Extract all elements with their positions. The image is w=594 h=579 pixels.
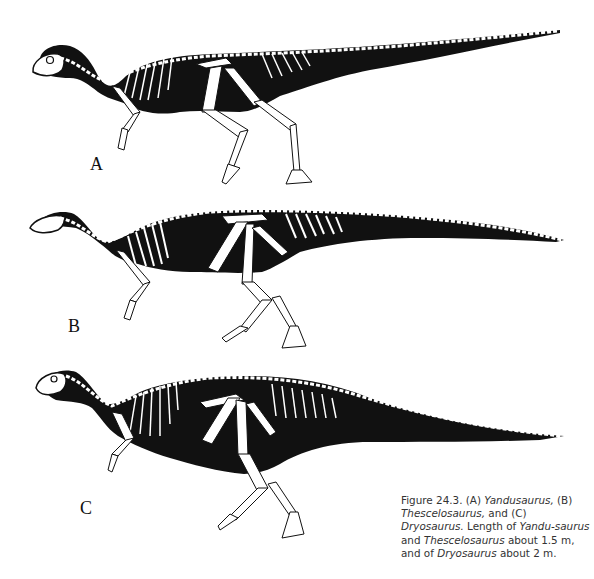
skeleton-b-skull bbox=[30, 216, 64, 233]
skeleton-c-skull bbox=[36, 373, 66, 395]
caption-taxon-yandusaurus: Yandusaurus, bbox=[484, 494, 553, 506]
caption-taxon-yandusaurus-length: Yandu-saurus bbox=[520, 520, 590, 532]
skeleton-a-body bbox=[40, 30, 560, 114]
skeleton-b-illustration bbox=[0, 192, 594, 352]
caption-prefix: Figure 24.3. (A) bbox=[401, 494, 484, 506]
caption-text: and bbox=[401, 534, 424, 546]
caption-taxon-dryosaurus: Dryosaurus. bbox=[401, 520, 464, 532]
panel-a: A bbox=[0, 0, 594, 192]
panel-label-b: B bbox=[68, 316, 80, 337]
caption-text: and (C) bbox=[485, 507, 527, 519]
panel-b: B bbox=[0, 192, 594, 352]
figure-caption: Figure 24.3. (A) Yandusaurus, (B) Thesce… bbox=[401, 494, 591, 560]
skeleton-b-body bbox=[40, 210, 564, 273]
caption-text: Length of bbox=[464, 520, 520, 532]
caption-taxon-thescelosaurus: Thescelosaurus, bbox=[401, 507, 485, 519]
caption-text: about 2 m. bbox=[497, 547, 557, 559]
caption-text: (B) bbox=[554, 494, 573, 506]
panel-label-a: A bbox=[90, 154, 103, 175]
panel-label-c: C bbox=[80, 498, 92, 519]
caption-taxon-thescelosaurus-length: Thescelosaurus bbox=[424, 534, 505, 546]
caption-taxon-dryosaurus-length: Dryosaurus bbox=[437, 547, 496, 559]
